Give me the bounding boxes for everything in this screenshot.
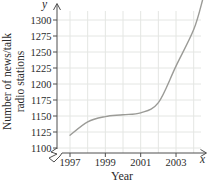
y-axis-symbol: y [42,0,47,10]
y-tick-label: 1300 [31,15,52,26]
y-axis-title-line2: radio stations [13,14,26,149]
x-axis-title: Year [92,169,152,184]
y-tick-label: 1125 [31,127,52,138]
line-chart-figure: 1100112511501175120012251250127513001997… [0,0,214,191]
y-tick-label: 1200 [31,79,52,90]
y-tick-label: 1275 [31,31,52,42]
y-tick-label: 1250 [31,47,52,58]
x-tick-label: 2001 [130,157,151,168]
y-tick-label: 1100 [31,143,52,154]
plot-canvas: 1100112511501175120012251250127513001997… [0,0,214,191]
x-tick-label: 2003 [166,157,187,168]
x-axis-symbol: x [200,153,205,165]
y-tick-label: 1150 [31,111,52,122]
x-tick-label: 1997 [60,157,81,168]
y-tick-label: 1225 [31,63,52,74]
y-tick-label: 1175 [31,95,52,106]
y-axis-title: Number of news/talk radio stations [1,14,26,149]
y-axis-title-line1: Number of news/talk [1,14,14,149]
x-tick-label: 1999 [95,157,116,168]
